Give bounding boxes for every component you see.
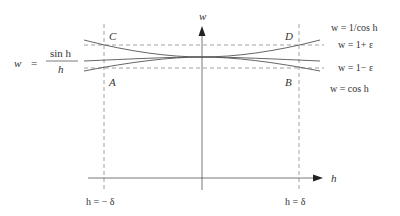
squeeze-diagram: w h w = sin h h C D A B w = 1/cos h w = … [0, 0, 400, 216]
corner-label-c: C [109, 30, 117, 42]
function-lhs: w [14, 57, 22, 69]
label-h-plus-delta: h = δ [285, 196, 306, 207]
corner-label-b: B [285, 76, 292, 88]
diagram-canvas: w h w = sin h h C D A B w = 1/cos h w = … [0, 0, 400, 216]
w-axis-label: w [199, 10, 207, 22]
label-cos-h: w = cos h [330, 83, 369, 94]
label-h-minus-delta: h = − δ [86, 196, 115, 207]
function-eq: = [31, 57, 37, 69]
function-denominator: h [58, 63, 64, 75]
corner-label-d: D [284, 30, 293, 42]
h-axis-label: h [331, 172, 337, 184]
label-1-minus-eps: w = 1− ε [338, 62, 373, 73]
function-numerator: sin h [50, 47, 72, 59]
label-sec-h: w = 1/cos h [331, 22, 377, 33]
w-axis-arrow-icon [199, 26, 206, 36]
label-1-plus-eps: w = 1+ ε [338, 39, 373, 50]
corner-label-a: A [108, 76, 116, 88]
h-axis-arrow-icon [313, 175, 323, 182]
